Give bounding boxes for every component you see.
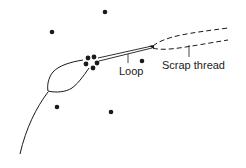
- scrap-thread-label: Scrap thread: [162, 59, 225, 71]
- dot: [140, 59, 145, 64]
- dot: [50, 30, 55, 35]
- teardrop-loop: [48, 60, 89, 92]
- cluster-dot: [84, 62, 89, 67]
- dot: [103, 10, 108, 15]
- scrap-thread-lines: [153, 28, 228, 49]
- knot-cluster: [84, 55, 100, 71]
- trailing-thread: [20, 92, 48, 154]
- dot: [109, 110, 114, 115]
- cluster-dot: [95, 61, 100, 66]
- loop-thread: [98, 46, 152, 61]
- cluster-dot: [86, 56, 91, 61]
- cluster-dot: [91, 66, 96, 71]
- dot: [55, 105, 60, 110]
- cluster-dot: [92, 55, 97, 60]
- diagram-canvas: Loop Scrap thread: [0, 0, 246, 168]
- loop-label: Loop: [119, 65, 143, 77]
